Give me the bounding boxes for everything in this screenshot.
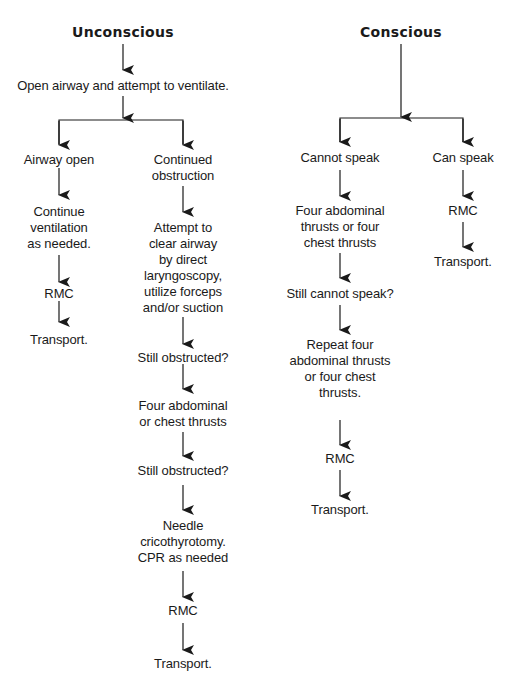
cannot-speak-transport-step: Transport. bbox=[311, 502, 369, 518]
text-line: cricothyrotomy. bbox=[138, 534, 228, 550]
cannot-speak-rmc-step: RMC bbox=[325, 451, 354, 467]
middle-transport-step: Transport. bbox=[154, 656, 212, 672]
text-line: obstruction bbox=[152, 168, 215, 184]
text-line: chest thrusts bbox=[296, 235, 385, 251]
text-line: Continued bbox=[152, 152, 215, 168]
can-speak-rmc-step: RMC bbox=[448, 203, 477, 219]
text-line: Continue bbox=[27, 204, 90, 220]
text-line: and/or suction bbox=[143, 300, 223, 316]
can-speak-transport-step: Transport. bbox=[434, 254, 492, 270]
can-speak-condition: Can speak bbox=[432, 150, 493, 166]
left-rmc-step: RMC bbox=[44, 286, 73, 302]
left-transport-step: Transport. bbox=[30, 332, 88, 348]
still-obstructed-question-1: Still obstructed? bbox=[138, 350, 229, 366]
text-line: abdominal thrusts bbox=[290, 353, 391, 369]
text-line: Attempt to bbox=[143, 220, 223, 236]
text-line: clear airway bbox=[143, 236, 223, 252]
unconscious-heading: Unconscious bbox=[72, 24, 174, 40]
text-line: laryngoscopy, bbox=[143, 268, 223, 284]
conscious-heading: Conscious bbox=[360, 24, 442, 40]
text-line: by direct bbox=[143, 252, 223, 268]
text-line: ventilation bbox=[27, 220, 90, 236]
still-obstructed-question-2: Still obstructed? bbox=[138, 463, 229, 479]
text-line: CPR as needed bbox=[138, 550, 228, 566]
text-line: thrusts. bbox=[290, 385, 391, 401]
needle-cricothyrotomy-step: Needle cricothyrotomy. CPR as needed bbox=[138, 518, 228, 566]
text-line: Four abdominal bbox=[139, 398, 228, 414]
airway-open-condition: Airway open bbox=[24, 152, 94, 168]
clear-airway-step: Attempt to clear airway by direct laryng… bbox=[143, 220, 223, 316]
repeat-thrusts-step: Repeat four abdominal thrusts or four ch… bbox=[290, 337, 391, 401]
open-airway-step: Open airway and attempt to ventilate. bbox=[17, 78, 229, 94]
continued-obstruction-condition: Continued obstruction bbox=[152, 152, 215, 184]
continue-ventilation-step: Continue ventilation as needed. bbox=[27, 204, 90, 252]
text-line: Needle bbox=[138, 518, 228, 534]
four-thrusts-step: Four abdominal or chest thrusts bbox=[139, 398, 228, 430]
text-line: Four abdominal bbox=[296, 203, 385, 219]
text-line: Repeat four bbox=[290, 337, 391, 353]
four-thrusts-conscious-step: Four abdominal thrusts or four chest thr… bbox=[296, 203, 385, 251]
still-cannot-speak-question: Still cannot speak? bbox=[286, 286, 393, 302]
text-line: or four chest bbox=[290, 369, 391, 385]
text-line: thrusts or four bbox=[296, 219, 385, 235]
text-line: utilize forceps bbox=[143, 284, 223, 300]
text-line: or chest thrusts bbox=[139, 414, 228, 430]
cannot-speak-condition: Cannot speak bbox=[300, 150, 379, 166]
text-line: as needed. bbox=[27, 236, 90, 252]
middle-rmc-step: RMC bbox=[168, 603, 197, 619]
